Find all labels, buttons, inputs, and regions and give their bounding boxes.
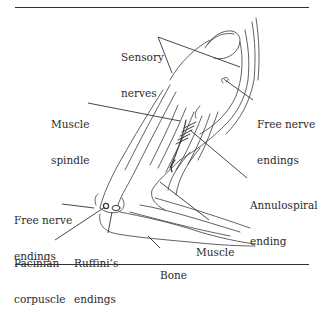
label-line: Sensory [121, 51, 164, 63]
leader-bone [148, 236, 160, 248]
label-line: spindle [51, 154, 90, 166]
label-annulospiral-ending: Annulospiral ending [250, 175, 318, 259]
label-line: nerves [121, 87, 164, 99]
label-line: Free nerve [14, 214, 72, 226]
label-free-nerve-endings-upper: Free nerve endings [257, 94, 315, 178]
leader-ruffini [108, 212, 112, 233]
label-line: Pacinian [14, 257, 66, 269]
label-line: Ruffini’s [74, 257, 118, 269]
label-line: Muscle [196, 246, 234, 258]
label-sensory-nerves: Sensory nerves [121, 27, 164, 111]
label-line: Bone [160, 269, 187, 281]
label-line: Annulospiral [250, 199, 318, 211]
leader-muscle [160, 182, 209, 220]
leader-free-nerve-upper [225, 80, 253, 100]
label-line: endings [257, 154, 315, 166]
leader-sensory-nerves-b [158, 37, 240, 67]
label-muscle-spindle: Muscle spindle [51, 94, 90, 178]
leader-annulospiral [190, 130, 247, 178]
label-line: Muscle [51, 118, 90, 130]
label-pacinian-corpuscle: Pacinian corpuscle [14, 233, 66, 309]
label-line: endings [74, 293, 118, 305]
label-line: corpuscle [14, 293, 66, 305]
label-line: ending [250, 235, 318, 247]
label-line: Free nerve [257, 118, 315, 130]
label-ruffinis-endings: Ruffini’s endings [74, 233, 118, 309]
label-muscle: Muscle [196, 222, 234, 270]
label-bone: Bone [160, 245, 187, 293]
